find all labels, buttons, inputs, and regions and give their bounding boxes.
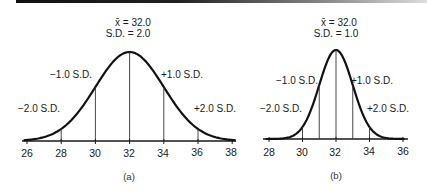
panel-b-plus1-label: +1.0 S.D. bbox=[351, 75, 393, 86]
panel-a-plus2-label: +2.0 S.D. bbox=[194, 103, 236, 114]
panel-b: x̄ = 32.0 S.D. = 1.0 −1.0 S.D. +1.0 S.D.… bbox=[260, 17, 409, 181]
panel-a-tick-label: 30 bbox=[89, 147, 101, 159]
panel-a-tick-label: 38 bbox=[225, 146, 237, 158]
panel-a-plus1-label: +1.0 S.D. bbox=[161, 69, 203, 80]
panel-b-minus2-label: −2.0 S.D. bbox=[260, 103, 302, 114]
panel-b-sd-label: S.D. = 1.0 bbox=[314, 28, 359, 39]
panel-a-tick-label: 34 bbox=[157, 147, 169, 159]
panel-b-tick-label: 34 bbox=[363, 145, 375, 157]
panel-b-plus2-label: +2.0 S.D. bbox=[367, 103, 409, 114]
panel-b-minus1-label: −1.0 S.D. bbox=[276, 75, 318, 86]
panel-a-minus2-label: −2.0 S.D. bbox=[18, 103, 60, 114]
panel-b-sd-lines bbox=[286, 50, 387, 139]
panel-a-tick-label: 36 bbox=[191, 146, 203, 158]
panel-a-sd-label: S.D. = 2.0 bbox=[106, 28, 151, 39]
panel-b-caption: (b) bbox=[330, 170, 342, 181]
panel-b-tick-label: 30 bbox=[296, 146, 308, 158]
panel-a-tick-label: 28 bbox=[55, 147, 67, 159]
panel-a-mean-label: x̄ = 32.0 bbox=[115, 17, 151, 28]
panel-b-curve bbox=[266, 50, 405, 139]
panel-b-tick-label: 28 bbox=[263, 146, 275, 158]
panel-b-tick-label: 36 bbox=[397, 145, 409, 157]
panel-b-tick-label: 32 bbox=[329, 146, 341, 158]
panel-b-mean-label: x̄ = 32.0 bbox=[321, 17, 357, 28]
panel-a-tick-label: 26 bbox=[21, 147, 33, 159]
panel-a-sd-lines bbox=[61, 52, 198, 141]
panel-a-caption: (a) bbox=[123, 171, 135, 182]
normal-distribution-figure: x̄ = 32.0 S.D. = 2.0 −1.0 S.D. +1.0 S.D.… bbox=[0, 0, 427, 192]
panel-a-tick-label: 32 bbox=[123, 147, 135, 159]
panel-a-minus1-label: −1.0 S.D. bbox=[50, 69, 92, 80]
panel-a: x̄ = 32.0 S.D. = 2.0 −1.0 S.D. +1.0 S.D.… bbox=[18, 17, 237, 182]
